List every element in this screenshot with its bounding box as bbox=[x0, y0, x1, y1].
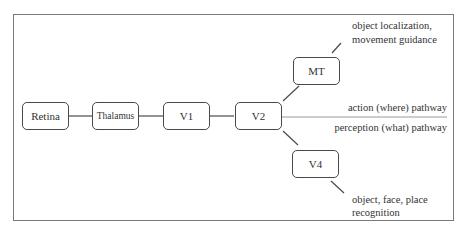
node-thalamus: Thalamus bbox=[92, 102, 139, 130]
node-label: V4 bbox=[309, 158, 322, 170]
edge-v4-annotation bbox=[331, 181, 344, 193]
node-retina: Retina bbox=[22, 102, 69, 130]
edge-v2-v4 bbox=[283, 131, 298, 145]
perception-pathway-label: perception (what) pathway bbox=[334, 121, 447, 134]
node-v4: V4 bbox=[292, 150, 339, 178]
mt-annotation-line2: movement guidance bbox=[352, 33, 437, 46]
node-label: Retina bbox=[31, 110, 60, 122]
mt-annotation-line1: object localization, bbox=[352, 19, 432, 32]
action-pathway-label: action (where) pathway bbox=[348, 101, 447, 114]
node-mt: MT bbox=[293, 57, 340, 85]
node-label: Thalamus bbox=[97, 111, 134, 121]
node-v2: V2 bbox=[235, 102, 282, 130]
edge-v2-mt bbox=[283, 86, 299, 101]
node-label: MT bbox=[308, 65, 325, 77]
node-label: V2 bbox=[252, 110, 265, 122]
node-v1: V1 bbox=[163, 102, 210, 130]
v4-annotation-line1: object, face, place bbox=[352, 193, 428, 206]
edge-mt-annotation bbox=[332, 43, 341, 53]
v4-annotation-line2: recognition bbox=[352, 206, 400, 219]
node-label: V1 bbox=[180, 110, 193, 122]
